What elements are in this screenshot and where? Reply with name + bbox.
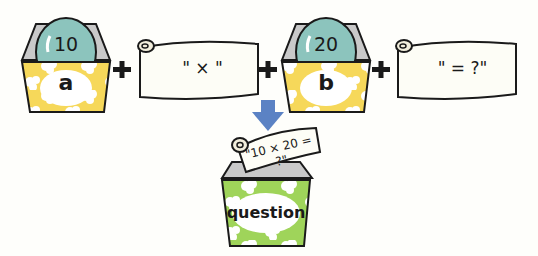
value-b: 20 bbox=[304, 33, 348, 55]
plus-icon bbox=[113, 61, 131, 78]
plus-icon bbox=[372, 61, 390, 78]
plus-icon bbox=[259, 61, 277, 78]
variable-name-a: a bbox=[44, 70, 88, 95]
variable-name-b: b bbox=[304, 70, 348, 95]
string-times: " × " bbox=[150, 58, 255, 78]
string-equals: " = ?" bbox=[410, 58, 515, 78]
result-name: question bbox=[226, 203, 306, 222]
down-arrow-icon bbox=[252, 100, 284, 131]
value-a: 10 bbox=[44, 33, 88, 55]
